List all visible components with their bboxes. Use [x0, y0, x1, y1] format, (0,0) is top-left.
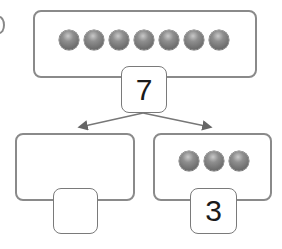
ball-icon	[204, 151, 224, 171]
arrow-right-icon	[143, 113, 210, 127]
part-right-number-box: 3	[190, 188, 237, 234]
part-right-balls	[179, 151, 249, 171]
ball-icon	[229, 151, 249, 171]
part-left-answer-box[interactable]	[53, 188, 98, 234]
arrow-left-icon	[80, 113, 143, 127]
ball-icon	[179, 151, 199, 171]
arrows	[0, 0, 282, 249]
